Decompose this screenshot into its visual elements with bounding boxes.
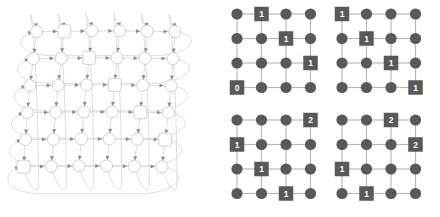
- grid-node-label: 1: [259, 164, 264, 174]
- grid-node-plain: [305, 139, 316, 150]
- grid-node-plain: [256, 139, 267, 150]
- edge-arrowhead: [164, 29, 168, 33]
- grid-node-plain: [305, 82, 316, 93]
- grid-edges: [342, 14, 416, 88]
- torus-node-circle: [156, 161, 168, 173]
- grid-edges: [342, 120, 416, 194]
- torus-wraparound-edge-row: [8, 167, 179, 194]
- edge-arrowhead: [136, 129, 140, 133]
- grid-node-label: 2: [413, 140, 418, 150]
- grid-node-label: 1: [413, 83, 418, 93]
- edge-arrowhead: [98, 137, 102, 141]
- torus-node-circle: [141, 25, 153, 37]
- grid-top-left: 1110: [230, 7, 318, 95]
- grid-node-plain: [256, 114, 267, 125]
- torus-nodes: [17, 25, 181, 173]
- grid-configurations: 1110111121112211: [220, 0, 440, 217]
- torus-node-circle: [73, 160, 85, 172]
- grid-node-plain: [256, 188, 267, 199]
- torus-node-circle: [101, 160, 113, 172]
- grid-node-plain: [231, 114, 242, 125]
- edge-arrowhead: [170, 76, 174, 80]
- torus-node-circle: [139, 52, 151, 64]
- edge-arrowhead: [40, 164, 44, 168]
- torus-wraparound-edge-row: [21, 32, 192, 56]
- grid-node-label: 1: [308, 58, 313, 68]
- torus-node-circle: [78, 106, 90, 118]
- grid-node-plain: [336, 57, 347, 68]
- torus-node-square: [108, 78, 121, 91]
- grid-node-plain: [385, 188, 396, 199]
- torus-node-circle: [47, 133, 59, 145]
- grid-node-plain: [410, 163, 421, 174]
- grid-node-plain: [305, 33, 316, 44]
- edge-arrowhead: [136, 29, 140, 33]
- grid-labels: 2111: [235, 115, 314, 198]
- grid-labels: 1111: [340, 9, 419, 93]
- edge-arrowhead: [70, 137, 74, 141]
- grid-nodes: [230, 113, 318, 201]
- grid-node-label: 0: [235, 83, 240, 93]
- grid-node-plain: [385, 163, 396, 174]
- torus-node-square: [134, 106, 147, 119]
- edge-arrowhead: [161, 156, 165, 160]
- grid-node-plain: [280, 139, 291, 150]
- grid-labels: 1110: [235, 9, 314, 93]
- torus-node-circle: [114, 25, 126, 37]
- grid-node-plain: [231, 57, 242, 68]
- edge-arrowhead: [78, 56, 82, 60]
- edge-arrowhead: [26, 102, 30, 106]
- torus-node-circle: [111, 52, 123, 64]
- edge-arrowhead: [50, 156, 54, 160]
- figure-root: 1110111121112211: [0, 0, 440, 217]
- grid-node-plain: [385, 8, 396, 19]
- torus-node-circle: [131, 133, 143, 145]
- grid-node-plain: [256, 82, 267, 93]
- grid-node-plain: [336, 82, 347, 93]
- torus-node-circle: [163, 107, 175, 119]
- edge-arrowhead: [134, 56, 138, 60]
- edge-arrowhead: [52, 129, 56, 133]
- edge-arrowhead: [54, 102, 58, 106]
- torus-node-circle: [24, 80, 36, 92]
- grid-node-plain: [385, 139, 396, 150]
- torus-node-circle: [31, 26, 43, 38]
- grid-node-plain: [336, 139, 347, 150]
- grid-bottom-right: 2211: [335, 113, 423, 201]
- grid-top-right: 1111: [335, 7, 423, 95]
- edge-arrowhead: [111, 102, 115, 106]
- edge-arrowhead: [123, 164, 127, 168]
- edge-arrowhead: [80, 129, 84, 133]
- grid-node-label: 2: [389, 115, 394, 125]
- torus-node-circle: [80, 79, 92, 91]
- torus-wraparound-edge-row: [14, 86, 187, 111]
- grid-node-plain: [305, 163, 316, 174]
- edge-arrowhead: [108, 129, 112, 133]
- grid-edges: [237, 14, 311, 88]
- edge-arrowhead: [68, 164, 72, 168]
- grid-node-label: 1: [364, 34, 369, 44]
- edge-arrowhead: [116, 48, 120, 52]
- torus-node-circle: [55, 52, 67, 64]
- torus-wraparound-edge-row: [10, 140, 182, 166]
- grid-nodes: [230, 7, 318, 95]
- grid-node-plain: [256, 57, 267, 68]
- torus-node-circle: [50, 106, 62, 118]
- grid-node-plain: [361, 139, 372, 150]
- edge-arrowhead: [78, 156, 82, 160]
- torus-node-circle: [75, 133, 87, 145]
- edge-arrowhead: [157, 110, 161, 114]
- torus-network-diagram: [0, 0, 220, 217]
- torus-node-square: [58, 25, 71, 38]
- grid-node-label: 1: [389, 58, 394, 68]
- grid-node-plain: [305, 8, 316, 19]
- edge-arrowhead: [24, 130, 28, 134]
- grid-node-label: 1: [259, 9, 264, 19]
- torus-wraparound-edge-row: [18, 59, 190, 84]
- torus-node-square: [83, 51, 96, 64]
- grid-node-plain: [256, 33, 267, 44]
- grid-node-label: 2: [308, 115, 313, 125]
- edge-arrowhead: [57, 75, 61, 79]
- grid-node-label: 1: [340, 9, 345, 19]
- torus-node-circle: [86, 25, 98, 37]
